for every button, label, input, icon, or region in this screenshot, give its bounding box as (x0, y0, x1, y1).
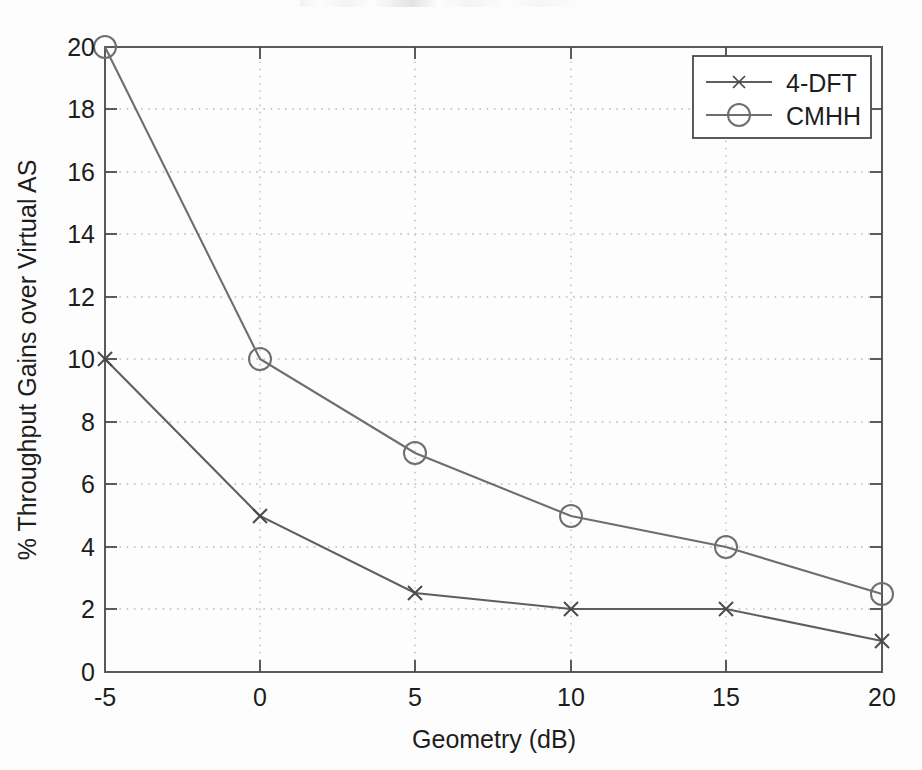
y-tick-label-14: 14 (67, 220, 95, 248)
y-tick-label-4: 4 (81, 533, 95, 561)
x-tick-label-1: 0 (253, 683, 267, 711)
x-tick-label-3: 10 (557, 683, 585, 711)
figure-canvas: -5 0 5 10 15 20 0 2 4 6 8 10 12 14 16 18… (0, 0, 922, 770)
y-tick-label-20: 20 (67, 33, 95, 61)
tick-marks-x (260, 47, 726, 672)
x-axis-title: Geometry (dB) (412, 725, 576, 753)
series-4dft-markers (98, 352, 889, 648)
y-tick-label-10: 10 (67, 345, 95, 373)
y-tick-label-12: 12 (67, 283, 95, 311)
x-tick-label-4: 15 (712, 683, 740, 711)
series-4dft-line (105, 359, 882, 641)
y-tick-label-16: 16 (67, 158, 95, 186)
y-tick-label-8: 8 (81, 408, 95, 436)
legend-label-cmhh: CMHH (786, 102, 861, 130)
y-tick-labels: 0 2 4 6 8 10 12 14 16 18 20 (67, 33, 95, 686)
grid-vertical (260, 47, 726, 672)
x-tick-label-2: 5 (408, 683, 422, 711)
x-tick-label-0: -5 (94, 683, 116, 711)
y-tick-label-2: 2 (81, 595, 95, 623)
legend[interactable]: 4-DFT CMHH (693, 56, 871, 138)
marker-4dft-1 (253, 509, 267, 523)
y-tick-label-0: 0 (81, 658, 95, 686)
x-tick-labels: -5 0 5 10 15 20 (94, 683, 896, 711)
y-tick-label-6: 6 (81, 470, 95, 498)
y-tick-label-18: 18 (67, 95, 95, 123)
grid-horizontal (105, 109, 882, 609)
series-4dft (98, 352, 889, 648)
line-chart: -5 0 5 10 15 20 0 2 4 6 8 10 12 14 16 18… (0, 0, 922, 770)
legend-label-4dft: 4-DFT (786, 69, 857, 97)
y-axis-title: % Throughput Gains over Virtual AS (13, 160, 41, 561)
x-tick-label-5: 20 (868, 683, 896, 711)
